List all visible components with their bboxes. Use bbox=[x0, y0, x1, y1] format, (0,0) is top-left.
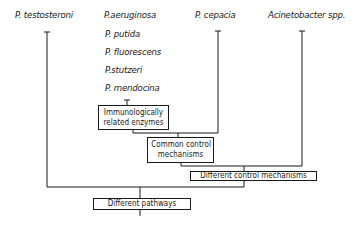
box-text-line2: mechanisms bbox=[151, 150, 210, 160]
box-different-control-mechanisms: Different control mechanisms bbox=[190, 171, 317, 181]
organism-p-cepacia: P. cepacia bbox=[195, 9, 236, 20]
box-immunologically-related-enzymes: Immunologically related enzymes bbox=[98, 105, 169, 130]
organism-p-testosteroni: P. testosteroni bbox=[15, 9, 73, 20]
box-different-pathways: Different pathways bbox=[93, 198, 191, 210]
box-text-line1: Immunologically bbox=[102, 108, 164, 118]
organism-p-mendocina: P. mendocina bbox=[105, 82, 160, 93]
organism-acinetobacter: Acinetobacter spp. bbox=[268, 9, 345, 20]
box-text-line1: Common control bbox=[151, 140, 210, 150]
organism-p-putida: P. putida bbox=[105, 28, 140, 39]
box-text: Different pathways bbox=[99, 199, 185, 209]
connector-lines bbox=[0, 0, 362, 226]
box-common-control-mechanisms: Common control mechanisms bbox=[147, 137, 214, 163]
box-text-line2: related enzymes bbox=[102, 118, 164, 128]
organism-p-stutzeri: P.stutzeri bbox=[105, 64, 142, 75]
organism-p-aeruginosa: P.aeruginosa bbox=[104, 9, 156, 20]
box-text: Different control mechanisms bbox=[197, 172, 310, 180]
organism-p-fluorescens: P. fluorescens bbox=[105, 46, 161, 57]
